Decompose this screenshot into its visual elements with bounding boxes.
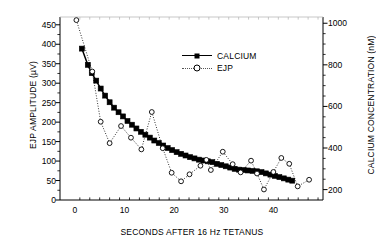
chart-legend: CALCIUM EJP (182, 50, 257, 74)
calcium-marker-icon (182, 51, 212, 62)
legend-label-ejp: EJP (217, 63, 233, 73)
legend-label-calcium: CALCIUM (217, 51, 257, 61)
legend-item-ejp: EJP (182, 62, 257, 74)
ejp-marker-icon (182, 63, 212, 74)
legend-item-calcium: CALCIUM (182, 50, 257, 62)
